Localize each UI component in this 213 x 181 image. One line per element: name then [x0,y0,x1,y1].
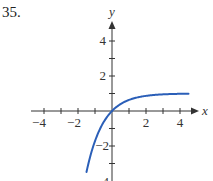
x-tick-label: 4 [177,115,184,130]
y-tick-label: −4 [95,174,109,181]
function-curve [87,94,189,172]
x-tick-label: −2 [67,115,81,130]
function-graph: −4 −2 2 4 x 4 2 −2 −4 y [0,0,213,181]
y-tick-label: 2 [100,68,107,83]
y-axis-arrow-icon [109,21,116,29]
y-axis: 4 2 −2 −4 y [95,4,115,181]
y-tick-label: 4 [100,33,107,48]
x-axis-label: x [201,103,208,118]
y-axis-label: y [107,4,115,19]
x-axis: −4 −2 2 4 x [31,103,208,130]
x-axis-arrow-icon [191,108,199,115]
y-tick-label: −2 [95,138,109,153]
x-tick-label: 2 [143,115,150,130]
x-tick-label: −4 [32,115,46,130]
